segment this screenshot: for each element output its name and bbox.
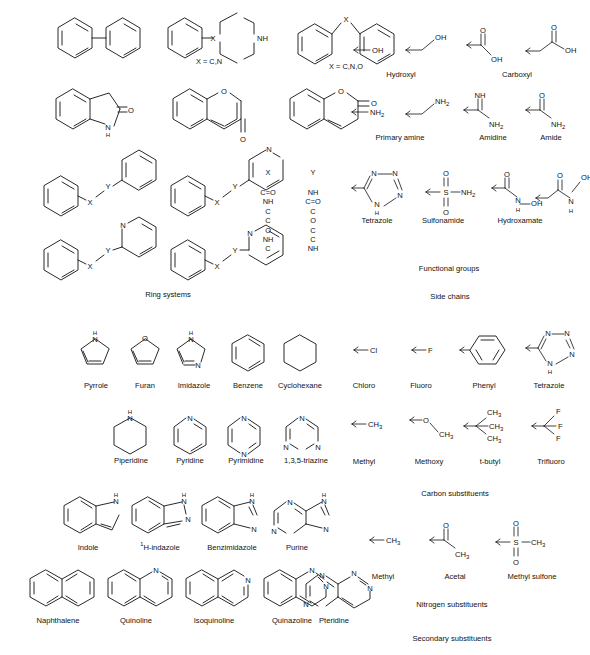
label-n-methyl: Methyl [372,572,394,581]
structure-pteridine: N N N N [300,565,372,613]
atom-label-NH2: NH2 [551,120,566,130]
structure-purine: N N N H N [268,492,334,540]
atom-label-N: N [321,497,326,506]
structure-carboxyl-acetic: O OH [524,24,582,66]
structure-benzimidazole: N H N [196,492,262,540]
structure-indole: N H [58,492,124,540]
label-furan: Furan [135,381,155,390]
linker-x-value: O [260,226,275,235]
structure-pyrimidine: N N [222,408,270,458]
atom-label-O: O [480,26,486,35]
label-indazole: 1H-indazole [140,543,179,552]
atom-label-O-ring: O [338,87,344,96]
atom-label-CH3: CH3 [489,422,504,432]
label-naphthalene: Naphthalene [36,616,79,625]
label-sulfonamide: Sulfonamide [422,216,464,225]
label-methyl: Methyl [353,457,375,466]
structure-pyrrole: N H [76,330,120,370]
atom-label-O: O [557,171,563,180]
structure-chloro: Cl [352,338,398,360]
atom-label-X: X [214,262,219,271]
label-pteridine: Pteridine [319,616,349,625]
structure-fluoro: F [410,338,454,360]
linker-y-value: C [305,226,320,235]
atom-label-OH: OH [435,33,446,42]
atom-label-N: N [547,359,552,368]
atom-label-CH3: CH3 [439,430,454,440]
linker-table-y-header: Y [311,168,316,177]
atom-label-H: H [128,409,132,415]
structure-amidine: NH NH2 [462,90,516,134]
linker-x-value: NH [260,197,275,206]
structure-hydroxyl-short: OH [352,38,398,60]
linker-x-value: C [260,207,275,216]
atom-label-N: N [568,197,573,206]
linker-x-value: C=O [260,188,275,197]
atom-label-NH2: NH2 [435,97,450,107]
structure-tetrazole-sidechain: N N N N H [350,170,414,220]
atom-label-O: O [221,87,227,96]
structure-isoquinoline: N [180,565,250,613]
label-benzimidazole: Benzimidazole [207,543,256,552]
atom-label-O: O [504,170,510,179]
label-cyclohexane: Cyclohexane [278,381,322,390]
structure-sulfonamide: O S O NH2 [424,170,490,220]
structure-chromone: O O [165,85,275,145]
atom-label-X: X [87,198,92,207]
label-imidazole: Imidazole [178,381,211,390]
label-methyl-sulfone: Methyl sulfone [508,572,557,581]
atom-label-N: N [545,329,550,338]
atom-label-F: F [558,422,563,431]
atom-label-H: H [250,492,254,498]
atom-label-O: O [443,521,449,530]
atom-label-S: S [513,538,518,547]
structure-n-methyl: CH3 [368,528,418,552]
structure-t-butyl: CH3 CH3 CH3 [462,404,524,452]
structure-carboxyl-short: O OH [465,28,517,68]
structure-hydroxamate-extended: O N H OH [534,168,590,218]
caption-nitrogen-substituents: Nitrogen substituents [416,600,487,609]
structure-oxindole: O N H [48,85,158,137]
atom-label-N: N [323,525,328,534]
atom-label-H: H [548,369,552,375]
atom-label-N: N [92,335,97,344]
atom-label-X: X [210,34,215,43]
label-chloro: Chloro [353,381,375,390]
atom-label-F: F [556,434,561,443]
atom-label-N: N [367,584,372,593]
structure-primary-amine-short: NH2 [350,100,402,124]
atom-label-N: N [181,497,186,506]
structure-tetrazole-substituent: N N N N H [524,328,588,378]
linker-y-value: C=O [305,197,320,206]
atom-label-CH3: CH3 [386,536,401,546]
atom-label-CH3: CH3 [487,408,502,418]
structure-pyridine: N [168,408,214,454]
atom-label-N: N [188,335,193,344]
label-quinoline: Quinoline [120,616,152,625]
atom-label-NH: NH [257,34,268,43]
label-phenyl: Phenyl [472,381,495,390]
atom-label-H: H [189,330,193,336]
atom-label-H: H [114,492,118,498]
atom-label-N: N [319,571,324,580]
atom-label-N: N [120,221,125,230]
atom-label-N: N [195,361,200,370]
atom-label-N: N [515,196,520,205]
atom-label-CH3: CH3 [487,434,502,444]
label-piperazine-x-definition: X = C,N [196,57,222,66]
label-amidine: Amidine [479,133,506,142]
label-hydroxyl: Hydroxyl [386,70,416,79]
atom-label-N: N [127,414,132,423]
atom-label-OH: OH [565,46,576,55]
label-fluoro: Fluoro [410,381,432,390]
structure-triazine: N N N [280,408,328,458]
structure-hydroxyl-ethyl: OH [404,28,454,60]
linker-y-value: O [305,216,320,225]
atom-label-N: N [187,414,192,423]
label-triazine: 1,3,5-triazine [284,456,328,465]
label-amide: Amide [540,133,562,142]
label-acetal: Acetal [444,572,465,581]
atom-label-Y: Y [105,182,110,191]
atom-label-O: O [513,519,519,528]
atom-label-N: N [266,145,271,154]
